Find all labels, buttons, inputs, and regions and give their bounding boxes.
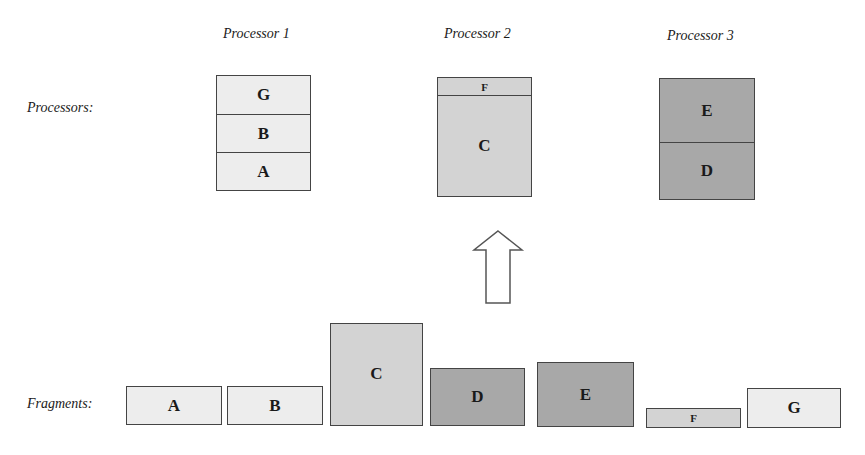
processor-2-segment-f: F <box>438 78 531 95</box>
processor-3-stack: E D <box>659 78 755 200</box>
fragment-b: B <box>227 386 323 425</box>
processor-1-segment-b: B <box>217 114 310 152</box>
fragment-a: A <box>126 386 222 425</box>
processor-1-stack: G B A <box>216 75 311 191</box>
processor-3-segment-e: E <box>660 79 754 142</box>
processor-1-segment-a: A <box>217 152 310 190</box>
fragment-g: G <box>747 388 841 428</box>
processor-2-title: Processor 2 <box>444 26 511 42</box>
processor-3-segment-d: D <box>660 142 754 199</box>
processors-row-label: Processors: <box>27 100 93 116</box>
hollow-up-arrow-icon <box>470 228 530 308</box>
fragment-c: C <box>330 323 423 426</box>
processor-1-segment-g: G <box>217 76 310 114</box>
fragment-d: D <box>430 368 525 426</box>
fragments-row-label: Fragments: <box>27 396 92 412</box>
processor-2-stack: F C <box>437 77 532 197</box>
processor-2-segment-c: C <box>438 95 531 195</box>
processor-3-title: Processor 3 <box>667 28 734 44</box>
fragment-e: E <box>537 362 634 427</box>
processor-1-title: Processor 1 <box>223 26 290 42</box>
fragment-f: F <box>646 408 741 428</box>
